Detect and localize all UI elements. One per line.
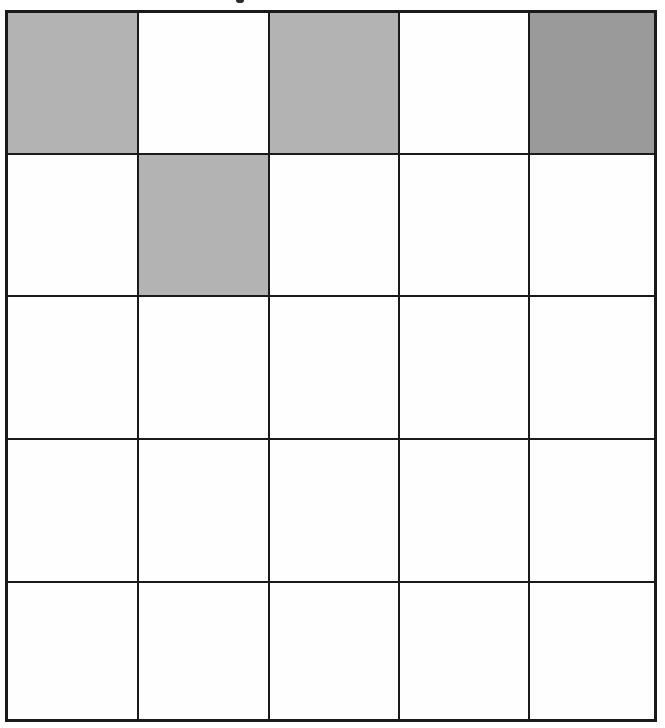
grid-cell-r0-c0-light [8, 13, 139, 155]
grid-cell-r3-c0-empty [8, 440, 139, 583]
grid-cell-r1-c1-light [139, 155, 270, 297]
grid-cell-r3-c2-empty [270, 440, 400, 583]
grid-cell-r4-c1-empty [139, 583, 270, 719]
grid-cell-r1-c4-empty [530, 155, 654, 297]
grid-cell-r0-c4-dark [530, 13, 654, 155]
grid-cell-r2-c1-empty [139, 297, 270, 440]
grid-cell-r0-c3-empty [400, 13, 530, 155]
grid-cell-r1-c0-empty [8, 155, 139, 297]
grid-cell-r2-c2-empty [270, 297, 400, 440]
grid-cell-r4-c3-empty [400, 583, 530, 719]
grid-cell-r2-c0-empty [8, 297, 139, 440]
grid-cell-r0-c1-empty [139, 13, 270, 155]
grid-cell-r1-c3-empty [400, 155, 530, 297]
grid-cell-r3-c1-empty [139, 440, 270, 583]
grid-cell-r3-c4-empty [530, 440, 654, 583]
cropped-heading-fragment [236, 0, 244, 3]
grid-cell-r4-c0-empty [8, 583, 139, 719]
grid-cell-r2-c4-empty [530, 297, 654, 440]
shaded-grid [5, 10, 657, 722]
grid-cell-r0-c2-light [270, 13, 400, 155]
grid-cell-r3-c3-empty [400, 440, 530, 583]
grid-cell-r1-c2-empty [270, 155, 400, 297]
grid-cell-r2-c3-empty [400, 297, 530, 440]
grid-cell-r4-c2-empty [270, 583, 400, 719]
grid-cell-r4-c4-empty [530, 583, 654, 719]
